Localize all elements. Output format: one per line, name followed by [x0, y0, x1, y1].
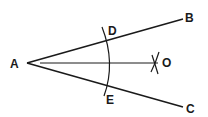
label-o: O — [162, 56, 171, 70]
ray-ab — [27, 19, 183, 63]
label-a: A — [10, 57, 19, 71]
label-b: B — [185, 11, 194, 25]
angle-bisector-diagram: A B C D E O — [0, 0, 208, 117]
label-d: D — [108, 24, 117, 38]
label-c: C — [186, 102, 195, 116]
label-e: E — [106, 93, 114, 107]
ray-ac — [27, 63, 183, 107]
